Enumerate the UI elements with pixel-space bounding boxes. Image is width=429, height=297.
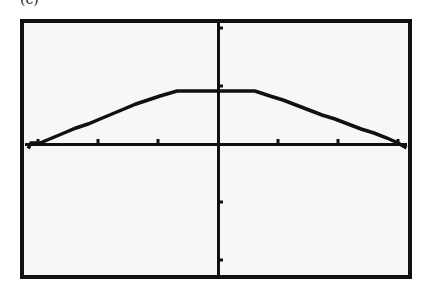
y-tick <box>218 85 223 88</box>
x-tick <box>157 139 160 144</box>
plot-canvas <box>0 0 429 297</box>
y-tick <box>218 259 223 262</box>
x-tick <box>337 139 340 144</box>
x-tick <box>277 139 280 144</box>
y-tick <box>218 27 223 30</box>
x-tick <box>97 139 100 144</box>
y-tick <box>218 201 223 204</box>
